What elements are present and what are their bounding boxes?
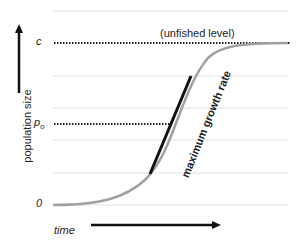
x-axis-arrow bbox=[91, 221, 221, 229]
zero-tick-label: 0 bbox=[36, 197, 42, 209]
diagram-canvas bbox=[0, 0, 303, 242]
gridlines bbox=[53, 11, 288, 205]
unfished-level-label: (unfished level) bbox=[160, 27, 235, 39]
p0-tick-label: po bbox=[34, 116, 45, 131]
p0-subscript: o bbox=[40, 122, 44, 131]
c-tick-label: c bbox=[36, 35, 42, 47]
logistic-growth-diagram: c po 0 (unfished level) time population … bbox=[0, 0, 303, 242]
x-axis-label: time bbox=[54, 224, 75, 236]
y-axis-label: population size bbox=[21, 81, 33, 171]
